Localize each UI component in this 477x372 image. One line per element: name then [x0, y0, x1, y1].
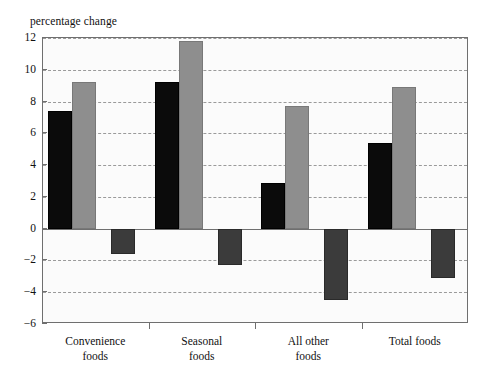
bar — [392, 87, 416, 228]
y-axis-tick-mark — [42, 228, 47, 229]
x-axis-group-label: All otherfoods — [255, 334, 362, 364]
bar — [261, 183, 285, 229]
bar — [324, 229, 348, 301]
y-axis-tick-mark — [42, 101, 47, 102]
y-axis-tick-mark — [42, 196, 47, 197]
x-axis-group-label-line: Convenience — [42, 334, 149, 349]
y-axis-tick-mark — [42, 259, 47, 260]
y-axis-tick-mark — [42, 291, 47, 292]
x-axis-group-label: Conveniencefoods — [42, 334, 149, 364]
y-axis-tick-label: 2 — [2, 190, 36, 202]
gridline — [43, 292, 467, 293]
x-axis-group-label-line: Total foods — [362, 334, 469, 349]
y-axis-tick-mark — [42, 132, 47, 133]
x-axis-group-label: Total foods — [362, 334, 469, 349]
y-axis-tick-label: 12 — [2, 31, 36, 43]
y-axis-tick-label: −6 — [2, 317, 36, 329]
x-axis-tick-mark — [149, 323, 150, 329]
bar — [368, 143, 392, 229]
x-axis-tick-mark — [255, 323, 256, 329]
x-axis-group-label-line: Seasonal — [149, 334, 256, 349]
x-axis-tick-mark — [362, 323, 363, 329]
bar — [72, 82, 96, 228]
zero-axis-line — [43, 229, 467, 230]
bar — [155, 82, 179, 228]
y-axis-tick-mark — [42, 69, 47, 70]
x-axis-group-label-line: All other — [255, 334, 362, 349]
y-axis-tick-label: −2 — [2, 253, 36, 265]
y-axis-tick-label: 8 — [2, 95, 36, 107]
x-axis-group-label: Seasonalfoods — [149, 334, 256, 364]
y-axis-tick-label: 6 — [2, 126, 36, 138]
y-axis-tick-label: −4 — [2, 285, 36, 297]
y-axis-tick-mark — [42, 323, 47, 324]
gridline — [43, 260, 467, 261]
plot-area — [42, 37, 468, 323]
y-axis-tick-mark — [42, 164, 47, 165]
gridline — [43, 70, 467, 71]
y-axis-tick-mark — [42, 37, 47, 38]
x-axis-group-label-line: foods — [42, 349, 149, 364]
bar-chart: percentage change 121086420−2−4−6Conveni… — [0, 0, 477, 372]
bar — [431, 229, 455, 278]
bar — [179, 41, 203, 228]
y-axis-tick-label: 4 — [2, 158, 36, 170]
bar — [218, 229, 242, 266]
y-axis-tick-label: 10 — [2, 63, 36, 75]
y-axis-tick-label: 0 — [2, 222, 36, 234]
bar — [111, 229, 135, 254]
x-axis-group-label-line: foods — [255, 349, 362, 364]
bar — [285, 106, 309, 228]
bar — [48, 111, 72, 229]
gridline — [43, 38, 467, 39]
y-axis-title: percentage change — [30, 15, 117, 27]
x-axis-group-label-line: foods — [149, 349, 256, 364]
